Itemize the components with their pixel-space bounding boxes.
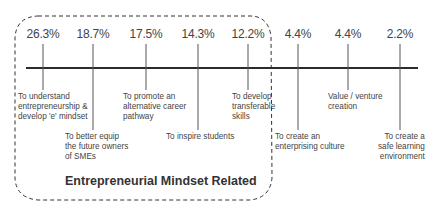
group-title: Entrepreneurial Mindset Related [65,174,257,188]
value-3: 17.5% [129,27,162,41]
value-2: 18.7% [76,27,109,41]
label-4: To inspire students [166,132,234,142]
label-7: Value / venture creation [328,92,382,112]
value-1: 26.3% [26,27,59,41]
value-6: 4.4% [285,27,312,41]
label-6: To create an enterprising culture [275,132,345,152]
value-7: 4.4% [335,27,362,41]
value-8: 2.2% [387,27,414,41]
label-2: To better equip the future owners of SME… [65,132,128,163]
label-1: To understand entrepreneurship & develop… [18,92,88,123]
label-5: To develop transferable skills [232,92,275,123]
value-4: 14.3% [181,27,214,41]
value-5: 12.2% [231,27,264,41]
label-8: To create a safe learning environment [378,132,425,163]
timeline-diagram: 26.3% 18.7% 17.5% 14.3% 12.2% 4.4% 4.4% … [0,0,431,216]
label-3: To promote an alternative career pathway [123,92,186,123]
